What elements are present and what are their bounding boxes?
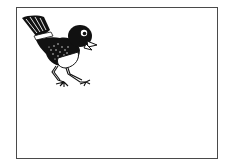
canvas <box>0 0 232 166</box>
bird-icon <box>20 14 98 88</box>
bird-tail <box>22 16 53 40</box>
bird-legs <box>52 66 90 87</box>
